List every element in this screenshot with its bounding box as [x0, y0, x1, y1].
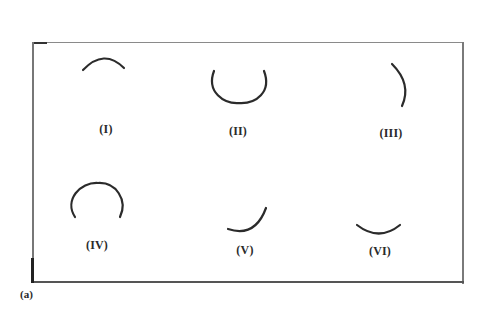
arcs-layer: [0, 0, 487, 329]
arc-iv: [71, 183, 122, 217]
arc-vi: [357, 225, 400, 234]
figure-caption: (a): [20, 288, 33, 300]
arc-ii: [212, 71, 266, 103]
arc-iii: [392, 64, 405, 106]
panel-label-v: (V): [236, 243, 253, 258]
panel-label-iii: (III): [379, 126, 402, 141]
panel-label-ii: (II): [229, 124, 247, 139]
panel-label-i: (I): [99, 122, 112, 137]
arc-v: [228, 208, 266, 231]
arc-i: [83, 58, 124, 70]
figure-panel: (I)(II)(III)(IV)(V)(VI) (a): [0, 0, 487, 329]
panel-label-iv: (IV): [86, 238, 108, 253]
panel-label-vi: (VI): [369, 244, 391, 259]
